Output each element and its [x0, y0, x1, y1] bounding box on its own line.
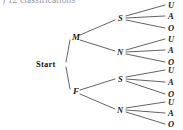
edge-s2-u	[126, 70, 165, 77]
edge-n1-a	[126, 50, 165, 52]
edge-m-s	[80, 20, 115, 35]
tree-edges	[66, 5, 165, 124]
edge-f-n	[80, 94, 115, 109]
tree-node-s-under-f: S	[118, 75, 123, 84]
tree-node-start: Start	[36, 60, 55, 69]
tree-node-n-under-f: N	[117, 106, 123, 115]
edge-s1-o	[126, 20, 165, 28]
edge-s2-a	[126, 79, 165, 82]
tree-leaf-3: O	[168, 24, 174, 33]
edge-n1-u	[126, 39, 165, 50]
edge-n2-u	[126, 102, 165, 108]
tree-leaf-2: A	[168, 12, 174, 21]
tree-node-f: F	[73, 87, 79, 96]
edge-n1-o	[126, 54, 165, 62]
edge-s2-o	[126, 81, 165, 94]
tree-leaf-8: A	[168, 78, 174, 87]
tree-node-n-under-m: N	[117, 48, 123, 57]
edge-start-m	[66, 40, 70, 62]
tree-leaf-12: O	[168, 120, 174, 129]
tree-leaf-4: U	[168, 35, 174, 44]
tree-leaf-11: A	[168, 109, 174, 118]
tree-leaf-1: U	[168, 1, 174, 10]
edge-n2-o	[126, 112, 165, 124]
tree-leaf-5: A	[168, 46, 174, 55]
edge-s1-a	[126, 16, 165, 18]
tree-diagram-canvas	[0, 0, 183, 130]
edge-n2-a	[126, 110, 165, 113]
tree-diagram-figure: ) 12 classifications	[0, 0, 183, 130]
tree-leaf-10: U	[168, 98, 174, 107]
edge-s1-u	[126, 5, 165, 16]
tree-node-m: M	[72, 33, 80, 42]
tree-node-s-under-m: S	[118, 14, 123, 23]
edge-f-s	[80, 79, 115, 90]
tree-leaf-7: U	[168, 66, 174, 75]
edge-m-n	[80, 40, 115, 51]
edge-start-f	[66, 67, 70, 89]
